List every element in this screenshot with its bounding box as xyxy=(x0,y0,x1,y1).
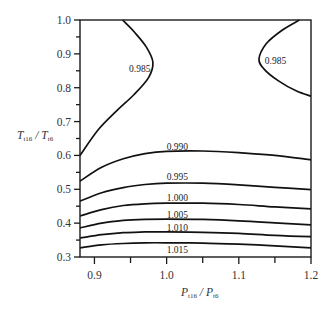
contour-line xyxy=(80,183,311,201)
y-tick-label: 0.9 xyxy=(57,48,72,60)
contour-level-label: 1.010 xyxy=(167,223,189,233)
contour-level-label: 1.005 xyxy=(167,210,189,220)
contour-level-label: 0.990 xyxy=(167,142,189,152)
x-title-sep: / xyxy=(197,286,206,298)
y-tick-label: 0.7 xyxy=(57,116,72,128)
contour-line xyxy=(80,232,311,238)
contour-level-label: 0.995 xyxy=(167,172,189,182)
contour-lines xyxy=(80,20,311,248)
x-tick-label: 1.2 xyxy=(304,269,319,281)
x-tick-label: 1.0 xyxy=(159,269,174,281)
y-tick-label: 0.5 xyxy=(57,183,72,195)
contour-level-label: 0.985 xyxy=(129,64,151,74)
contour-line xyxy=(80,151,311,181)
contour-line xyxy=(80,20,153,155)
y-tick-label: 0.4 xyxy=(57,217,72,229)
x-title-main2: P xyxy=(205,286,213,298)
y-title-sub2: t6 xyxy=(48,135,54,143)
y-tick-label: 0.8 xyxy=(57,82,72,94)
contour-chart: 0.9850.9850.9900.9951.0001.0051.0101.015… xyxy=(0,0,334,313)
contour-line xyxy=(80,203,311,216)
y-axis-title: Tt16 / Tt6 xyxy=(17,129,54,143)
contour-level-label: 1.000 xyxy=(167,193,189,203)
x-axis-title: Pt16 / Pt6 xyxy=(180,286,219,300)
contour-line xyxy=(80,243,311,248)
y-tick-label: 0.6 xyxy=(57,149,72,161)
x-tick-label: 0.9 xyxy=(87,269,102,281)
y-title-sep: / xyxy=(32,129,41,141)
x-tick-label: 1.1 xyxy=(232,269,247,281)
x-title-sub2: t6 xyxy=(213,292,219,300)
y-tick-label: 1.0 xyxy=(57,14,72,26)
contour-line xyxy=(80,219,311,228)
y-tick-label: 0.3 xyxy=(57,251,72,263)
contour-level-label: 1.015 xyxy=(167,245,189,255)
x-title-main1: P xyxy=(180,286,188,298)
contour-level-label: 0.985 xyxy=(265,56,287,66)
